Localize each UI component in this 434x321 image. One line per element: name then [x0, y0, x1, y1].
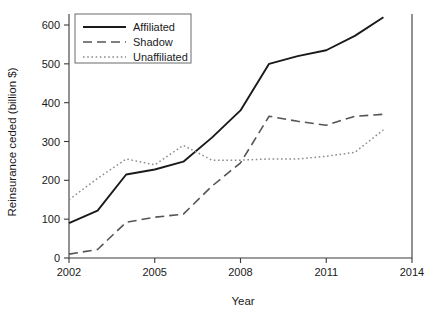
y-tick-label: 400 [42, 97, 60, 109]
y-tick-label: 100 [42, 213, 60, 225]
x-tick-label: 2008 [228, 266, 252, 278]
x-tick-label: 2014 [400, 266, 424, 278]
y-tick-label: 300 [42, 136, 60, 148]
line-chart: 20022005200820112014 0100200300400500600… [0, 0, 434, 321]
chart-legend: AffiliatedShadowUnaffiliated [75, 14, 191, 63]
y-tick-label: 200 [42, 174, 60, 186]
chart-figure: 20022005200820112014 0100200300400500600… [0, 0, 434, 321]
legend-label-shadow: Shadow [133, 36, 173, 48]
y-axis-ticks [64, 25, 69, 258]
x-axis-tick-labels: 20022005200820112014 [57, 266, 424, 278]
x-axis-ticks [69, 258, 412, 263]
series-line-unaffiliated [69, 130, 383, 200]
series-line-shadow [69, 114, 383, 254]
x-axis-title: Year [231, 295, 254, 307]
x-tick-label: 2005 [143, 266, 167, 278]
y-axis-title: Reinsurance ceded (billion $) [6, 67, 18, 216]
y-tick-label: 600 [42, 19, 60, 31]
x-tick-label: 2002 [57, 266, 81, 278]
y-tick-label: 500 [42, 58, 60, 70]
legend-label-affiliated: Affiliated [133, 21, 175, 33]
x-tick-label: 2011 [314, 266, 338, 278]
legend-label-unaffiliated: Unaffiliated [133, 51, 188, 63]
y-tick-label: 0 [54, 252, 60, 264]
y-axis-tick-labels: 0100200300400500600 [42, 19, 60, 264]
